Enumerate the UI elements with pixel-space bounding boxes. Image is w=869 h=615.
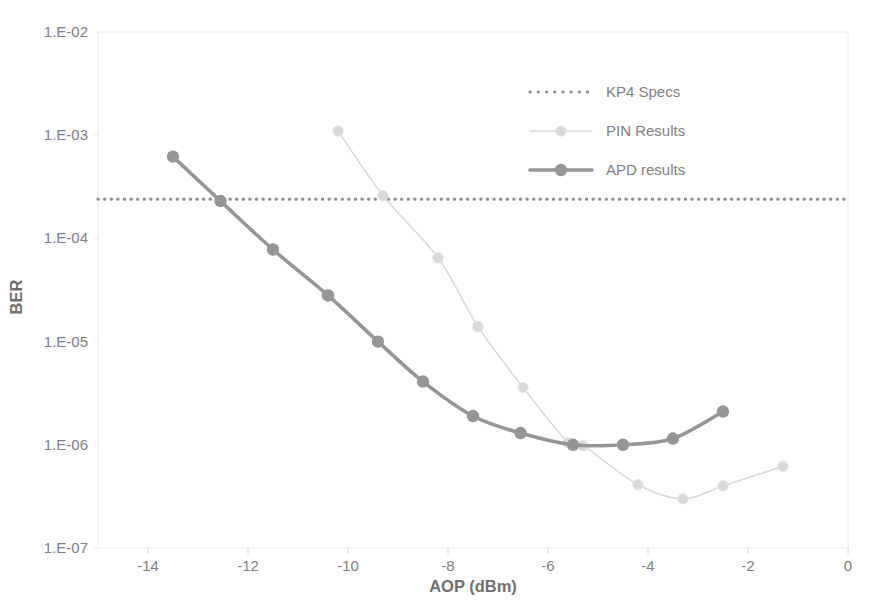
x-tick-label: -14 xyxy=(137,557,159,574)
y-tick-label: 1.E-03 xyxy=(44,126,88,143)
legend-label: KP4 Specs xyxy=(606,83,680,100)
plot-area xyxy=(98,32,848,548)
data-point-marker xyxy=(378,190,388,200)
legend-swatch-marker xyxy=(556,126,566,136)
chart-container: 1.E-021.E-031.E-041.E-051.E-061.E-07 -14… xyxy=(0,0,869,615)
data-point-marker xyxy=(717,405,729,417)
x-tick-label: -10 xyxy=(337,557,359,574)
ber-vs-aop-chart: 1.E-021.E-031.E-041.E-051.E-061.E-07 -14… xyxy=(0,0,869,615)
legend-label: PIN Results xyxy=(606,122,685,139)
data-point-marker xyxy=(473,321,483,331)
y-axis-title: BER xyxy=(7,280,25,315)
data-point-marker xyxy=(433,253,443,263)
x-tick-label: -6 xyxy=(541,557,554,574)
legend-label: APD results xyxy=(606,161,685,178)
data-point-marker xyxy=(372,335,384,347)
data-point-marker xyxy=(167,150,179,162)
data-point-marker xyxy=(518,382,528,392)
data-point-marker xyxy=(778,461,788,471)
data-point-marker xyxy=(417,375,429,387)
y-tick-label: 1.E-06 xyxy=(44,436,88,453)
data-point-marker xyxy=(214,195,226,207)
x-tick-label: -8 xyxy=(441,557,454,574)
data-point-marker xyxy=(633,480,643,490)
data-point-marker xyxy=(678,494,688,504)
legend-swatch-marker xyxy=(555,164,567,176)
data-point-marker xyxy=(667,432,679,444)
x-tick-label: 0 xyxy=(844,557,852,574)
data-point-marker xyxy=(514,427,526,439)
y-tick-label: 1.E-02 xyxy=(44,23,88,40)
x-tick-label: -4 xyxy=(641,557,654,574)
x-tick-label: -2 xyxy=(741,557,754,574)
x-tick-label: -12 xyxy=(237,557,259,574)
data-point-marker xyxy=(267,243,279,255)
x-axis-tick-labels: -14-12-10-8-6-4-20 xyxy=(137,557,852,574)
data-point-marker xyxy=(567,439,579,451)
data-point-marker xyxy=(617,439,629,451)
y-tick-label: 1.E-04 xyxy=(44,229,88,246)
y-axis-tick-labels: 1.E-021.E-031.E-041.E-051.E-061.E-07 xyxy=(44,23,98,556)
data-point-marker xyxy=(718,481,728,491)
y-tick-label: 1.E-07 xyxy=(44,539,88,556)
data-point-marker xyxy=(333,126,343,136)
data-point-marker xyxy=(467,410,479,422)
y-tick-label: 1.E-05 xyxy=(44,333,88,350)
data-point-marker xyxy=(322,289,334,301)
x-axis-title: AOP (dBm) xyxy=(429,577,517,595)
x-axis-tick-marks xyxy=(148,548,848,554)
